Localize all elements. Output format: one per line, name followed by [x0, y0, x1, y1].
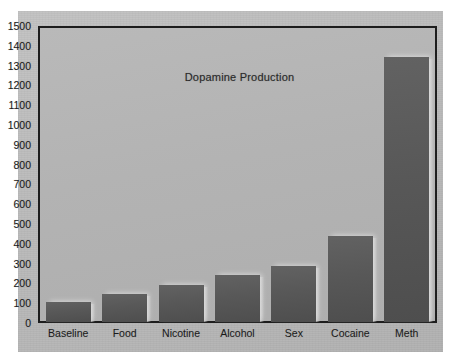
x-axis-tick-label: Meth: [379, 327, 435, 339]
chart-figure: 0100200300400500600700800900100011001200…: [0, 0, 452, 363]
y-axis-tick-label: 1000: [8, 119, 31, 131]
y-axis-tick-label: 900: [13, 139, 31, 151]
y-axis-tick-label: 400: [13, 238, 31, 250]
bar-baseline[interactable]: [46, 302, 91, 322]
y-axis-tick-label: 0: [25, 317, 31, 329]
bar-slot: [328, 28, 373, 322]
x-axis-tick-label: Cocaine: [322, 327, 378, 339]
bar-sex[interactable]: [271, 266, 316, 322]
y-axis-tick-label: 1100: [8, 99, 31, 111]
y-axis: 0100200300400500600700800900100011001200…: [0, 26, 34, 323]
bar-meth[interactable]: [384, 57, 429, 322]
x-axis-tick-label: Alcohol: [209, 327, 265, 339]
x-axis-tick-label: Baseline: [40, 327, 96, 339]
x-axis: BaselineFoodNicotineAlcoholSexCocaineMet…: [38, 327, 437, 349]
bar-nicotine[interactable]: [159, 285, 204, 322]
y-axis-tick-label: 1300: [8, 60, 31, 72]
bar-food[interactable]: [102, 294, 147, 322]
x-axis-tick-label: Food: [96, 327, 152, 339]
x-axis-tick-label: Nicotine: [153, 327, 209, 339]
bar-alcohol[interactable]: [215, 275, 260, 322]
bar-slot: [159, 28, 204, 322]
y-axis-tick-label: 700: [13, 178, 31, 190]
bars-container: [40, 28, 435, 322]
bar-slot: [384, 28, 429, 322]
y-axis-tick-label: 1400: [8, 40, 31, 52]
bar-slot: [102, 28, 147, 322]
y-axis-tick-label: 100: [13, 297, 31, 309]
bar-cocaine[interactable]: [328, 236, 373, 322]
y-axis-tick-label: 1500: [8, 20, 31, 32]
bar-slot: [46, 28, 91, 322]
y-axis-tick-label: 1200: [8, 79, 31, 91]
y-axis-tick-label: 500: [13, 218, 31, 230]
y-axis-tick-label: 300: [13, 258, 31, 270]
y-axis-tick-label: 600: [13, 198, 31, 210]
y-axis-tick-label: 200: [13, 277, 31, 289]
y-axis-tick-label: 800: [13, 159, 31, 171]
bar-slot: [271, 28, 316, 322]
x-axis-tick-label: Sex: [266, 327, 322, 339]
bar-slot: [215, 28, 260, 322]
